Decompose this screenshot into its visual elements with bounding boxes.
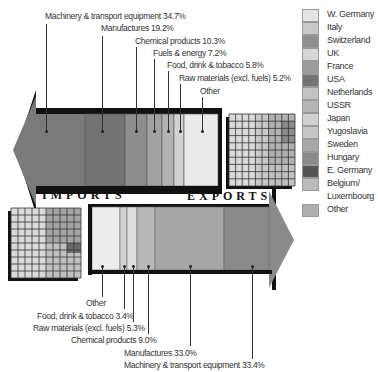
legend-swatch <box>302 87 319 100</box>
exports-label-raw: Raw materials (excl. fuels) 5.3% <box>33 323 145 333</box>
legend-swatch <box>302 165 319 178</box>
legend-swatch <box>302 22 319 35</box>
exports-seg-chemical <box>137 207 155 270</box>
legend-swatch <box>302 126 319 139</box>
exports-label-other: Other <box>86 298 106 308</box>
legend-swatch <box>302 35 319 48</box>
imports-label-fuels: Fuels & energy 7.2% <box>153 48 226 58</box>
legend-swatch <box>302 48 319 61</box>
imports-label-machinery: Machinery & transport equipment 34.7% <box>45 11 186 21</box>
legend-label: Netherlands <box>327 87 372 98</box>
exports-label-machinery: Machinery & transport equipment 33.4% <box>124 360 265 370</box>
imports-seg-manufactures <box>85 114 125 186</box>
imports-leader-food <box>168 71 169 132</box>
legend-label-line2: Luxembourg <box>327 191 374 202</box>
legend-swatch <box>302 152 319 165</box>
legend-label: Hungary <box>327 152 359 163</box>
legend-swatch <box>302 204 319 217</box>
exports-label-manufactures: Manufactures 33.0% <box>124 348 197 358</box>
exports-country-grid <box>8 208 81 281</box>
imports-leader-other <box>202 97 203 132</box>
legend-label: Japan <box>327 113 350 124</box>
exports-left-bar <box>88 205 92 275</box>
imports-dot-food <box>167 130 170 133</box>
legend-label: USSR <box>327 100 351 111</box>
legend-swatch <box>302 9 319 22</box>
exports-base-bar <box>88 270 272 274</box>
imports-dot-raw <box>179 130 182 133</box>
legend-label: E. Germany <box>327 165 372 176</box>
imports-label-food: Food, drink & tobacco 5.8% <box>167 60 264 70</box>
exports-label-chemical: Chemical products 9.0% <box>71 335 157 345</box>
legend-label: France <box>327 61 353 72</box>
legend-label: USA <box>327 74 345 85</box>
imports-country-grid <box>226 114 295 189</box>
exports-seg-other <box>92 207 120 270</box>
imports-dot-other <box>201 130 204 133</box>
imports-dot-fuels <box>153 130 156 133</box>
legend-label: Italy <box>327 22 342 33</box>
imports-label-raw: Raw materials (excl. fuels) 5.2% <box>179 73 291 83</box>
imports-title: IMPORTS <box>42 188 126 203</box>
exports-seg-food <box>120 207 127 270</box>
imports-dot-chemical <box>135 130 138 133</box>
exports-leader-manufactures <box>190 267 191 346</box>
imports-leader-fuels <box>154 59 155 132</box>
exports-leader-other <box>102 267 103 297</box>
exports-leader-chemical <box>148 267 149 334</box>
legend-label: W. Germany <box>327 9 374 20</box>
legend-label: UK <box>327 48 339 59</box>
imports-leader-raw <box>180 84 181 132</box>
imports-leader-machinery <box>46 24 47 132</box>
imports-dot-machinery <box>45 130 48 133</box>
legend-swatch <box>302 178 319 191</box>
legend-swatch <box>302 100 319 113</box>
imports-seg-other <box>184 114 218 186</box>
imports-label-other: Other <box>200 86 220 96</box>
exports-leader-food <box>124 267 125 309</box>
imports-leader-manufactures <box>102 36 103 132</box>
imports-seg-machinery <box>36 114 85 186</box>
legend-swatch <box>302 139 319 152</box>
exports-title: EXPORTS <box>187 189 271 204</box>
exports-leader-raw <box>133 267 134 322</box>
legend-swatch <box>302 113 319 126</box>
exports-leader-machinery <box>252 267 253 359</box>
exports-seg-manufactures <box>155 207 224 270</box>
legend-swatch <box>302 61 319 74</box>
imports-leader-chemical <box>136 47 137 132</box>
imports-seg-raw <box>174 114 184 186</box>
legend-label: Yugoslavia <box>327 126 368 137</box>
imports-label-chemical: Chemical products 10.3% <box>135 36 225 46</box>
imports-dot-manufactures <box>101 130 104 133</box>
legend-label: Sweden <box>327 139 358 150</box>
legend-label: Switzerland <box>327 35 370 46</box>
exports-label-food: Food, drink & tobacco 3.4% <box>37 311 134 321</box>
legend-label: Belgium/ <box>327 178 360 189</box>
exports-seg-machinery <box>224 207 269 270</box>
legend-label: Other <box>327 204 348 215</box>
exports-seg-raw <box>127 207 137 270</box>
imports-label-manufactures: Manufactures 19.2% <box>101 23 174 33</box>
legend-swatch <box>302 74 319 87</box>
